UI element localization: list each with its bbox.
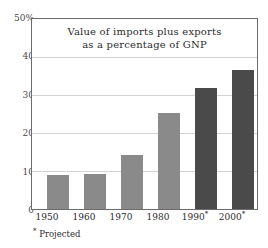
x-axis-tick-2000-year: 2000 xyxy=(219,212,242,222)
bar-1990 xyxy=(195,88,217,209)
y-axis-tick-40: 40 xyxy=(4,52,34,61)
x-axis-tick-1970-year: 1970 xyxy=(110,212,133,222)
chart-title-line-1: Value of imports plus exports xyxy=(67,26,221,37)
bar-1970 xyxy=(121,155,143,209)
gridline-30 xyxy=(32,95,257,96)
plot-area: Value of imports plus exports as a perce… xyxy=(31,18,258,210)
footnote-text: Projected xyxy=(39,229,80,239)
bar-chart-figure: 50% 40 30 20 10 0 Value of imports plus … xyxy=(0,0,268,248)
bar-1980 xyxy=(158,113,180,209)
x-axis-tick-1980-year: 1980 xyxy=(147,212,170,222)
bar-2000 xyxy=(232,70,254,209)
footnote: * Projected xyxy=(33,229,80,239)
x-axis-tick-1960-year: 1960 xyxy=(73,212,96,222)
y-axis-tick-30: 30 xyxy=(4,91,34,100)
y-axis-tick-10: 10 xyxy=(4,168,34,177)
bar-1960 xyxy=(84,174,106,209)
x-axis-tick-2000-star: * xyxy=(242,210,246,218)
chart-title: Value of imports plus exports as a perce… xyxy=(32,25,257,51)
gridline-10 xyxy=(32,171,257,172)
gridline-40 xyxy=(32,57,257,58)
bar-1950 xyxy=(47,175,69,209)
y-axis-tick-20: 20 xyxy=(4,129,34,138)
x-axis-tick-1950-year: 1950 xyxy=(36,212,59,222)
x-axis-tick-1990-year: 1990 xyxy=(182,212,205,222)
x-axis-tick-1990-star: * xyxy=(205,210,209,218)
gridline-20 xyxy=(32,133,257,134)
y-axis-tick-50: 50% xyxy=(4,14,34,23)
x-axis-tick-2000: 2000* xyxy=(209,212,255,223)
chart-title-line-2: as a percentage of GNP xyxy=(32,38,257,51)
footnote-marker: * xyxy=(33,227,37,235)
